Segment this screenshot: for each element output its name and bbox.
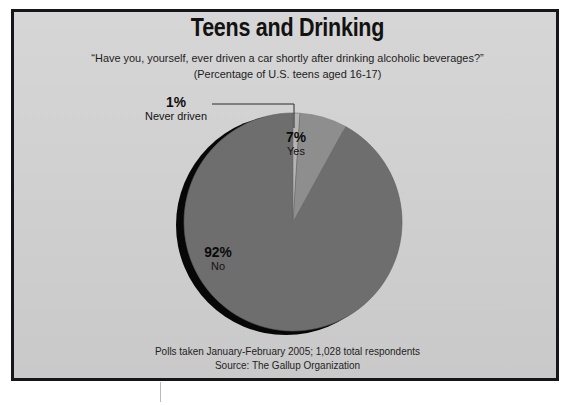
callout-yes-percent: 7% — [270, 129, 322, 145]
callout-never-driven: 1% Never driven — [128, 94, 224, 123]
chart-frame — [11, 9, 559, 381]
chart-figure: Teens and Drinking “Have you, yourself, … — [0, 0, 575, 405]
callout-never-driven-label: Never driven — [130, 110, 221, 123]
callout-no: 92% No — [182, 244, 254, 273]
callout-no-label: No — [184, 260, 252, 273]
chart-background — [14, 12, 556, 378]
footer-source: Source: The Gallup Organization — [14, 359, 560, 371]
callout-never-driven-percent: 1% — [132, 94, 220, 110]
chart-subtitle-secondary: (Percentage of U.S. teens aged 16-17) — [14, 68, 560, 80]
callout-yes: 7% Yes — [268, 129, 324, 158]
chart-subtitle: “Have you, yourself, ever driven a car s… — [14, 52, 560, 64]
footer-poll-note: Polls taken January-February 2005; 1,028… — [14, 345, 560, 357]
callout-no-percent: 92% — [185, 244, 251, 260]
chart-title: Teens and Drinking — [40, 13, 535, 42]
bottom-tick-mark — [160, 382, 161, 402]
callout-yes-label: Yes — [269, 145, 322, 158]
